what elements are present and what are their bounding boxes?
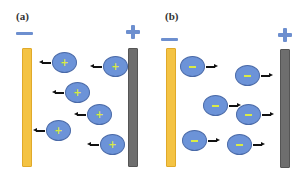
panel-label-b: (b)	[165, 10, 178, 22]
arrow-right-icon	[208, 140, 217, 142]
arrow-left-icon	[36, 130, 45, 132]
positive-ion: +	[87, 104, 112, 125]
positive-ion: +	[46, 120, 71, 141]
negative-ion	[227, 134, 252, 155]
positive-ion: +	[52, 52, 77, 73]
minus-icon	[161, 38, 178, 41]
panel-a: (a) + + + + + +	[0, 0, 153, 177]
negative-ion	[182, 130, 207, 151]
positive-electrode	[280, 49, 290, 168]
negative-electrode	[22, 48, 32, 167]
arrow-right-icon	[253, 144, 262, 146]
negative-ion	[236, 104, 261, 125]
minus-charge-icon	[245, 114, 252, 116]
minus-charge-icon	[236, 144, 243, 146]
negative-electrode	[166, 48, 176, 167]
plus-charge-icon: +	[60, 58, 68, 68]
plus-charge-icon: +	[73, 88, 81, 98]
panel-b: (b)	[153, 0, 306, 177]
minus-charge-icon	[191, 140, 198, 142]
plus-charge-icon: +	[95, 110, 103, 120]
positive-ion: +	[65, 82, 90, 103]
positive-ion: +	[103, 56, 128, 77]
arrow-right-icon	[262, 114, 271, 116]
arrow-right-icon	[229, 105, 238, 107]
arrow-left-icon	[90, 144, 99, 146]
plus-charge-icon: +	[108, 140, 116, 150]
arrow-left-icon	[55, 92, 64, 94]
arrow-left-icon	[42, 62, 51, 64]
minus-charge-icon	[212, 105, 219, 107]
plus-charge-icon: +	[54, 126, 62, 136]
arrow-right-icon	[206, 66, 215, 68]
negative-ion	[235, 65, 260, 86]
plus-charge-icon: +	[111, 62, 119, 72]
plus-icon	[126, 25, 140, 39]
minus-charge-icon	[189, 66, 196, 68]
arrow-left-icon	[93, 66, 102, 68]
negative-ion	[203, 95, 228, 116]
panel-label-a: (a)	[16, 10, 29, 22]
arrow-right-icon	[261, 75, 270, 77]
negative-ion	[180, 56, 205, 77]
minus-icon	[16, 32, 33, 35]
positive-ion: +	[100, 134, 125, 155]
arrow-left-icon	[77, 114, 86, 116]
plus-icon	[278, 28, 292, 42]
minus-charge-icon	[244, 75, 251, 77]
positive-electrode	[128, 48, 138, 167]
